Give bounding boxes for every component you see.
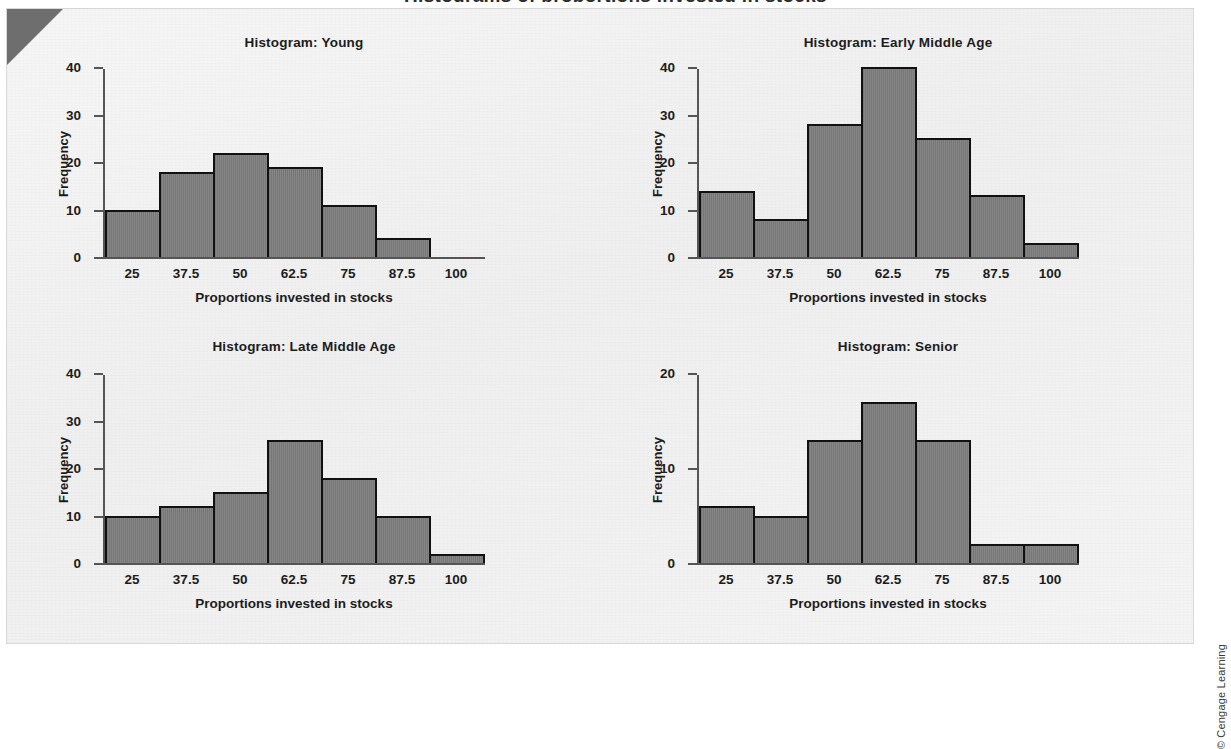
x-tick-labels: 2537.55062.57587.5100 — [105, 572, 483, 587]
chart-cell-0: Histogram: YoungFrequency0102030402537.5… — [7, 9, 601, 327]
chart-cell-1: Histogram: Early Middle AgeFrequency0102… — [601, 9, 1194, 327]
histogram-bar — [375, 516, 431, 564]
y-tick: 20 — [94, 162, 103, 164]
histogram-bar — [213, 153, 269, 258]
x-tick-label: 50 — [213, 266, 267, 281]
x-tick-labels: 2537.55062.57587.5100 — [105, 266, 483, 281]
y-tick-label: 10 — [66, 202, 81, 217]
histogram-bar — [861, 402, 917, 564]
histogram-bar — [969, 544, 1025, 563]
histogram-bar — [321, 205, 377, 257]
y-tick-label: 40 — [66, 366, 81, 381]
x-tick-label: 50 — [213, 572, 267, 587]
histogram-bar — [159, 172, 215, 258]
y-tick: 20 — [688, 162, 697, 164]
x-axis-title: Proportions invested in stocks — [105, 290, 483, 305]
x-tick-label: 62.5 — [267, 572, 321, 587]
plot-area: Frequency0102030402537.55062.57587.5100P… — [103, 375, 543, 565]
x-tick-label: 75 — [321, 266, 375, 281]
y-tick: 30 — [688, 115, 697, 117]
x-axis-line — [697, 563, 1079, 565]
histogram-grid: Histogram: YoungFrequency0102030402537.5… — [7, 9, 1194, 644]
x-tick-label: 25 — [105, 572, 159, 587]
y-tick: 0 — [688, 563, 697, 565]
histogram-bar — [267, 440, 323, 564]
x-tick-label: 87.5 — [375, 266, 429, 281]
histogram-bar — [429, 554, 485, 564]
y-tick: 30 — [94, 115, 103, 117]
y-tick-label: 30 — [66, 413, 81, 428]
histogram-bar — [1023, 243, 1079, 257]
histogram-bar — [105, 516, 161, 564]
y-tick: 10 — [688, 210, 697, 212]
x-tick-label: 25 — [699, 572, 753, 587]
x-tick-labels: 2537.55062.57587.5100 — [699, 266, 1077, 281]
y-tick-label: 40 — [66, 60, 81, 75]
histogram-bar — [267, 167, 323, 257]
y-tick: 0 — [688, 257, 697, 259]
x-axis-line — [697, 257, 1079, 259]
plot-area: Frequency0102030402537.55062.57587.5100P… — [697, 69, 1137, 259]
histogram-bar — [699, 191, 755, 258]
figure-panel: Histogram: YoungFrequency0102030402537.5… — [6, 8, 1194, 644]
chart-title: Histogram: Young — [7, 35, 601, 50]
x-axis-title: Proportions invested in stocks — [699, 290, 1077, 305]
x-tick-label: 25 — [105, 266, 159, 281]
y-tick: 0 — [94, 257, 103, 259]
x-tick-label: 87.5 — [969, 572, 1023, 587]
x-tick-label: 62.5 — [267, 266, 321, 281]
bar-series — [105, 67, 483, 257]
x-tick-label: 62.5 — [861, 266, 915, 281]
histogram-bar — [915, 440, 971, 564]
y-tick-label: 0 — [667, 250, 675, 265]
x-axis-title: Proportions invested in stocks — [105, 596, 483, 611]
y-tick: 40 — [94, 373, 103, 375]
chart-cell-2: Histogram: Late Middle AgeFrequency01020… — [7, 327, 601, 644]
y-tick: 10 — [94, 210, 103, 212]
x-tick-label: 37.5 — [753, 572, 807, 587]
histogram-bar — [753, 219, 809, 257]
histogram-bar — [807, 440, 863, 564]
histogram-bar — [915, 138, 971, 257]
x-tick-label: 100 — [429, 266, 483, 281]
histogram-bar — [807, 124, 863, 257]
histogram-bar — [159, 506, 215, 563]
y-tick-label: 10 — [660, 461, 675, 476]
histogram-bar — [375, 238, 431, 257]
plot-area: Frequency0102030402537.55062.57587.5100P… — [103, 69, 543, 259]
chart-title: Histogram: Senior — [601, 339, 1194, 354]
y-tick-label: 30 — [660, 107, 675, 122]
cut-off-heading-text: Histograms of proportions invested in st… — [0, 0, 1231, 2]
y-tick-label: 10 — [66, 508, 81, 523]
histogram-bar — [969, 195, 1025, 257]
histogram-bar — [105, 210, 161, 258]
plot-area: Frequency010202537.55062.57587.5100Propo… — [697, 375, 1137, 565]
x-tick-label: 25 — [699, 266, 753, 281]
cut-off-heading: Histograms of proportions invested in st… — [0, 0, 1231, 2]
y-tick-label: 0 — [73, 556, 81, 571]
histogram-bar — [1023, 544, 1079, 563]
x-tick-label: 75 — [915, 572, 969, 587]
x-axis-line — [103, 257, 485, 259]
y-tick-label: 10 — [660, 202, 675, 217]
histogram-bar — [699, 506, 755, 563]
y-tick: 10 — [94, 516, 103, 518]
x-tick-label: 75 — [915, 266, 969, 281]
y-tick-label: 20 — [660, 155, 675, 170]
histogram-bar — [753, 516, 809, 564]
chart-cell-3: Histogram: SeniorFrequency010202537.5506… — [601, 327, 1194, 644]
bar-series — [699, 67, 1077, 257]
x-tick-label: 87.5 — [375, 572, 429, 587]
x-tick-label: 100 — [1023, 266, 1077, 281]
y-tick-label: 40 — [660, 60, 675, 75]
x-tick-label: 75 — [321, 572, 375, 587]
x-axis-line — [103, 563, 485, 565]
x-tick-label: 87.5 — [969, 266, 1023, 281]
x-tick-label: 62.5 — [861, 572, 915, 587]
x-tick-label: 50 — [807, 266, 861, 281]
y-tick-label: 0 — [73, 250, 81, 265]
bar-series — [105, 373, 483, 563]
y-tick: 40 — [688, 67, 697, 69]
histogram-bar — [861, 67, 917, 257]
y-tick: 0 — [94, 563, 103, 565]
